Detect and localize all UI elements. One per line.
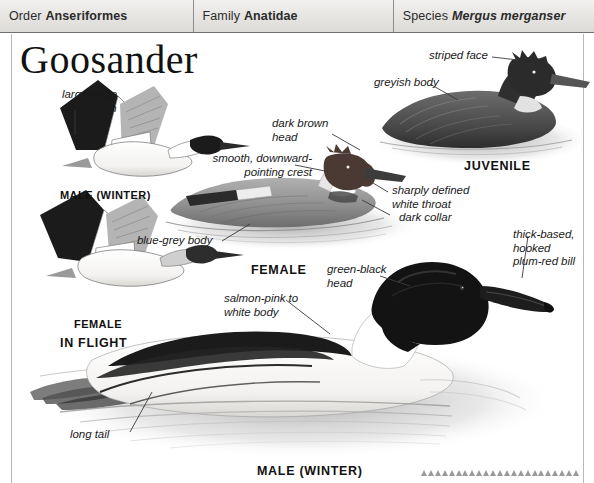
annotation-green-black-head: green-black head	[327, 263, 387, 290]
annotation-sharply-defined-white-throat: sharply defined white throat	[392, 184, 469, 211]
caption-juvenile: JUVENILE	[464, 159, 531, 173]
annotation-large-white-wing-patch: large white wing patch	[62, 88, 117, 115]
annotation-striped-face: striped face	[429, 49, 488, 63]
annotation-greyish-body: greyish body	[374, 76, 439, 90]
annotation-smooth-downward-pointing-crest: smooth, downward- pointing crest	[186, 152, 312, 179]
annotation-long-tail: long tail	[70, 428, 109, 442]
field-guide-page: Order Anseriformes Family Anatidae Speci…	[0, 0, 594, 483]
sawtooth-decoration	[421, 466, 579, 476]
annotation-dark-brown-head: dark brown head	[272, 117, 328, 144]
annotation-thick-based-hooked-plum-red-bill: thick-based, hooked plum-red bill	[513, 228, 575, 269]
caption-female-swimming: FEMALE	[251, 263, 307, 277]
annotation-blue-grey-body: blue-grey body	[137, 234, 212, 248]
annotation-dark-collar: dark collar	[399, 211, 452, 225]
caption-female-flight: FEMALE	[74, 318, 122, 330]
caption-in-flight: IN FLIGHT	[60, 336, 127, 350]
caption-male-winter-flight: MALE (WINTER)	[60, 189, 151, 201]
illustration-juvenile	[370, 50, 590, 166]
annotation-salmon-pink-to-white-body: salmon-pink to white body	[224, 292, 298, 319]
page-title: Goosander	[20, 40, 198, 80]
caption-male-winter-swimming: MALE (WINTER)	[257, 464, 363, 478]
